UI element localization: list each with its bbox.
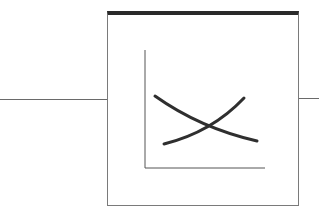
increasing-curve bbox=[164, 98, 244, 144]
crossing-curves-graph-icon bbox=[0, 0, 319, 211]
decreasing-curve bbox=[155, 96, 257, 141]
